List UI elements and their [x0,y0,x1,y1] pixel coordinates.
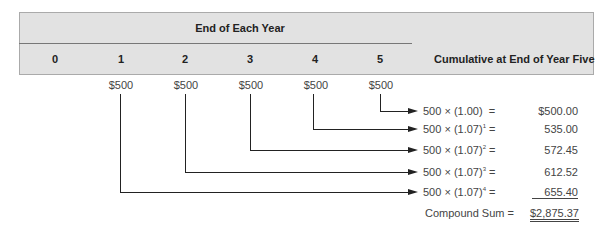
equation-row: 500 × (1.07)4 = [423,186,495,198]
equation-row: 500 × (1.07)1 = [423,123,495,135]
group-title: End of Each Year [175,22,305,34]
cash-flow-1: $500 [101,79,141,91]
connector-2-h [185,172,410,173]
connector-5-h [380,111,410,112]
connector-4-h [313,129,410,130]
equation-row: 500 × (1.07)2 = [423,144,495,156]
year-5: 5 [365,53,395,65]
last-value: 655.40 [532,186,578,199]
value-row: 655.40 [530,186,578,198]
arrow-icon [408,108,418,114]
connector-1-h [120,192,410,193]
header-divider [19,43,412,44]
connector-5 [380,94,381,111]
connector-3 [250,94,251,150]
value-row: 535.00 [530,123,578,135]
year-2: 2 [170,53,200,65]
cumulative-label: Cumulative at End of Year Five [434,53,595,65]
connector-1 [120,94,121,192]
year-3: 3 [235,53,265,65]
year-1: 1 [106,53,136,65]
compound-sum-label: Compound Sum = [425,207,514,219]
connector-3-h [250,150,410,151]
equation-row: 500 × (1.07)3 = [423,166,495,178]
cash-flow-3: $500 [231,79,271,91]
connector-2 [185,94,186,172]
year-4: 4 [300,53,330,65]
compound-sum-value-wrap: $2,875.37 [530,207,578,219]
cash-flow-5: $500 [361,79,401,91]
arrow-icon [408,169,418,175]
connector-4 [313,94,314,129]
arrow-icon [408,126,418,132]
value-row: $500.00 [530,105,578,117]
arrow-icon [408,189,418,195]
cash-flow-2: $500 [166,79,206,91]
equation-row: 500 × (1.00) = [423,105,495,117]
compound-sum-value: $2,875.37 [530,207,579,222]
cash-flow-4: $500 [296,79,336,91]
arrow-icon [408,147,418,153]
value-row: 612.52 [530,166,578,178]
value-row: 572.45 [530,144,578,156]
year-0: 0 [40,53,70,65]
